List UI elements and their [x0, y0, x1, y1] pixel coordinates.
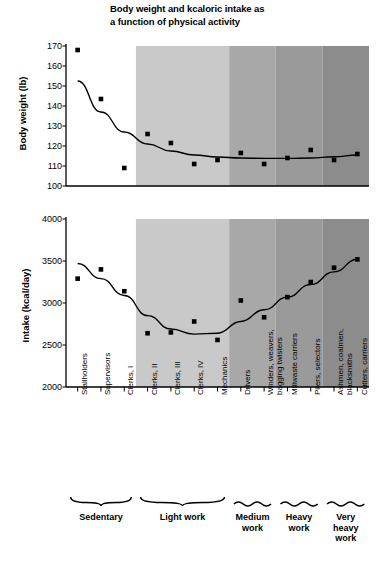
- group-label-line: Sedentary: [56, 512, 146, 523]
- x-category-label-line: blacksmiths: [346, 329, 355, 395]
- x-category-label: Clerks, IV: [197, 360, 206, 395]
- x-category-label: Millwaste carriers: [291, 333, 300, 395]
- data-point: [262, 162, 267, 167]
- x-category-label: Mechanics: [221, 357, 230, 395]
- data-point: [145, 331, 150, 336]
- activity-band-3: [276, 46, 323, 186]
- intake-tick-label: 2000: [20, 382, 62, 392]
- data-point: [355, 257, 360, 262]
- data-point: [239, 298, 244, 303]
- x-category-label: Drivers: [244, 370, 253, 395]
- group-label-line: Very: [301, 512, 380, 523]
- data-point: [332, 158, 337, 163]
- figure-title-line2: a function of physical activity: [110, 16, 370, 29]
- data-point: [355, 152, 360, 157]
- weight-tick-label: 120: [20, 141, 62, 151]
- x-category-label-line: Drivers: [244, 370, 253, 395]
- group-label: Veryheavywork: [301, 512, 380, 544]
- x-category-label-line: Pilers, selectors: [314, 339, 323, 395]
- figure-title: Body weight and kcaloric intake as a fun…: [110, 3, 370, 28]
- data-point: [122, 166, 127, 171]
- x-category-label-line: Clerks, III: [174, 361, 183, 395]
- data-point: [75, 48, 80, 53]
- x-category-label-line: Clerks, II: [151, 363, 160, 395]
- x-category-label: Clerks, III: [174, 361, 183, 395]
- data-point: [169, 330, 174, 335]
- weight-tick-label: 170: [20, 41, 62, 51]
- data-point: [239, 151, 244, 156]
- x-category-label-line: Millwaste carriers: [291, 333, 300, 395]
- figure-root: Body weight and kcaloric intake as a fun…: [0, 0, 380, 576]
- activity-band-4: [322, 46, 369, 186]
- group-label: Sedentary: [56, 512, 146, 523]
- x-category-label: Cutters, carriers: [361, 338, 370, 395]
- data-point: [215, 158, 220, 163]
- x-category-label-line: Stallholders: [81, 353, 90, 395]
- x-category-label: Supervisors: [104, 353, 113, 395]
- data-point: [99, 267, 104, 272]
- x-category-label-line: Mechanics: [221, 357, 230, 395]
- activity-band-2: [229, 46, 276, 186]
- weight-panel: [63, 44, 370, 186]
- data-point: [192, 319, 197, 324]
- weight-tick-label: 110: [20, 161, 62, 171]
- data-point: [122, 289, 127, 294]
- data-point: [262, 315, 267, 320]
- data-point: [99, 97, 104, 102]
- weight-tick-label: 140: [20, 101, 62, 111]
- activity-band-1: [136, 46, 229, 186]
- x-category-label-line: Clerks, I: [127, 366, 136, 395]
- group-label-line: heavy: [301, 523, 380, 534]
- data-point: [215, 338, 220, 343]
- x-category-label-line: Cutters, carriers: [361, 338, 370, 395]
- data-point: [75, 276, 80, 281]
- x-category-label: Clerks, I: [127, 366, 136, 395]
- weight-tick-label: 160: [20, 61, 62, 71]
- intake-tick-label: 3500: [20, 256, 62, 266]
- x-category-label-line: bagging twisters: [276, 329, 285, 395]
- x-category-label: Pilers, selectors: [314, 339, 323, 395]
- data-point: [169, 141, 174, 146]
- data-point: [308, 280, 313, 285]
- weight-axis-title: Body weight (lb): [17, 54, 28, 174]
- data-point: [332, 265, 337, 270]
- weight-tick-label: 130: [20, 121, 62, 131]
- data-point: [285, 156, 290, 161]
- intake-tick-label: 3000: [20, 298, 62, 308]
- x-category-label-line: Clerks, IV: [197, 360, 206, 395]
- intake-tick-label: 4000: [20, 214, 62, 224]
- x-category-label: Stallholders: [81, 353, 90, 395]
- data-point: [285, 295, 290, 300]
- weight-tick-label: 150: [20, 81, 62, 91]
- figure-title-line1: Body weight and kcaloric intake as: [110, 3, 370, 16]
- x-category-label: Winders, weavers,bagging twisters: [267, 329, 284, 395]
- data-point: [308, 148, 313, 153]
- data-point: [145, 132, 150, 137]
- weight-tick-label: 100: [20, 181, 62, 191]
- data-point: [192, 162, 197, 167]
- x-category-label: Clerks, II: [151, 363, 160, 395]
- intake-tick-label: 2500: [20, 340, 62, 350]
- group-label-line: work: [301, 533, 380, 544]
- x-category-label: Ashmen, coalmen,blacksmiths: [337, 329, 354, 395]
- x-category-label-line: Supervisors: [104, 353, 113, 395]
